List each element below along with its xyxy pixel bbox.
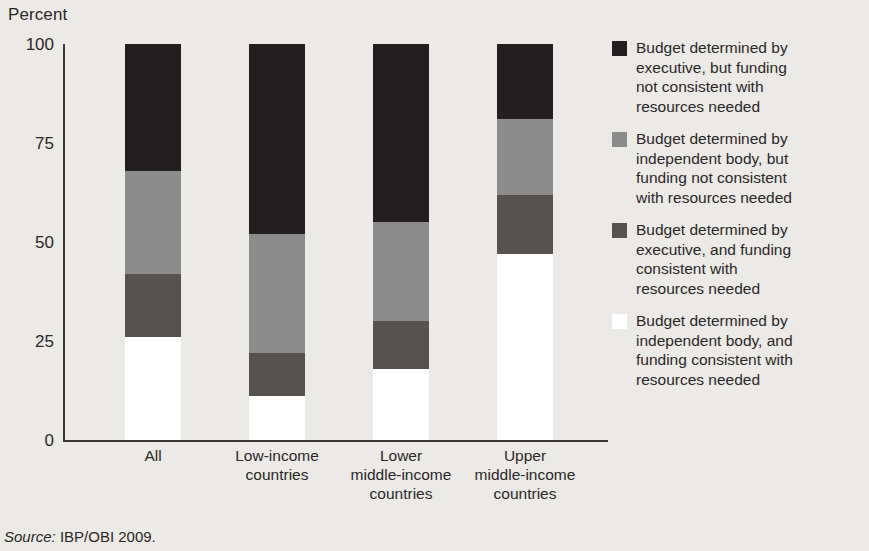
legend-label: Budget determined byindependent body, an… [636, 311, 793, 389]
bar-segment [249, 353, 305, 397]
bar-segment [125, 337, 181, 440]
source-text: IBP/OBI 2009. [60, 528, 156, 545]
bar-segment [497, 254, 553, 440]
legend-label-line: Budget determined by [636, 129, 792, 149]
legend-label-line: funding consistent with [636, 350, 793, 370]
bar-group [249, 44, 305, 440]
bar-group [373, 44, 429, 440]
legend-swatch-icon [612, 41, 627, 56]
legend-item[interactable]: Budget determined byexecutive, and fundi… [612, 220, 864, 298]
bar-group [497, 44, 553, 440]
legend-label-line: resources needed [636, 279, 791, 299]
bar-segment [249, 396, 305, 440]
legend-label-line: with resources needed [636, 188, 792, 208]
source-note: Source: IBP/OBI 2009. [4, 528, 156, 545]
y-tick-100: 100 [8, 36, 54, 53]
plot-area: 0255075100 [63, 44, 608, 440]
chart-legend: Budget determined byexecutive, but fundi… [612, 38, 864, 402]
bar-segment [497, 119, 553, 194]
legend-item[interactable]: Budget determined byindependent body, an… [612, 311, 864, 389]
legend-label: Budget determined byexecutive, but fundi… [636, 38, 788, 116]
stacked-bar-chart-figure: Percent 0255075100 AllLow-incomecountrie… [0, 0, 869, 551]
x-axis-line [63, 440, 608, 442]
legend-item[interactable]: Budget determined byexecutive, but fundi… [612, 38, 864, 116]
bar-group [125, 44, 181, 440]
bar-segment [249, 44, 305, 234]
bar-segment [125, 171, 181, 274]
y-tick-25: 25 [8, 333, 54, 350]
bar-segment [373, 321, 429, 369]
bar-segment [373, 222, 429, 321]
bar-segment [249, 234, 305, 353]
legend-label-line: Budget determined by [636, 220, 791, 240]
x-tick-label-line: Upper [450, 446, 600, 465]
legend-label-line: Budget determined by [636, 311, 793, 331]
bar-segment [125, 274, 181, 337]
legend-swatch-icon [612, 223, 627, 238]
x-tick-label: Uppermiddle-incomecountries [450, 446, 600, 503]
legend-label-line: Budget determined by [636, 38, 788, 58]
legend-label-line: funding not consistent [636, 168, 792, 188]
source-label: Source: [4, 528, 56, 545]
legend-label-line: executive, and funding [636, 240, 791, 260]
y-tick-50: 50 [8, 234, 54, 251]
bar-segment [497, 195, 553, 254]
bar-segment [497, 44, 553, 119]
bar-segment [373, 44, 429, 222]
legend-label: Budget determined byexecutive, and fundi… [636, 220, 791, 298]
bars-container [63, 44, 608, 440]
y-axis-title: Percent [8, 5, 67, 25]
legend-label-line: resources needed [636, 370, 793, 390]
y-tick-0: 0 [8, 432, 54, 449]
y-tick-75: 75 [8, 135, 54, 152]
bar-segment [373, 369, 429, 440]
legend-swatch-icon [612, 314, 627, 329]
legend-label-line: resources needed [636, 97, 788, 117]
x-tick-label-line: countries [450, 484, 600, 503]
legend-label: Budget determined byindependent body, bu… [636, 129, 792, 207]
legend-label-line: executive, but funding [636, 58, 788, 78]
legend-label-line: not consistent with [636, 77, 788, 97]
legend-label-line: consistent with [636, 259, 791, 279]
legend-label-line: independent body, and [636, 331, 793, 351]
x-tick-label-line: middle-income [450, 465, 600, 484]
legend-swatch-icon [612, 132, 627, 147]
legend-label-line: independent body, but [636, 149, 792, 169]
legend-item[interactable]: Budget determined byindependent body, bu… [612, 129, 864, 207]
bar-segment [125, 44, 181, 171]
